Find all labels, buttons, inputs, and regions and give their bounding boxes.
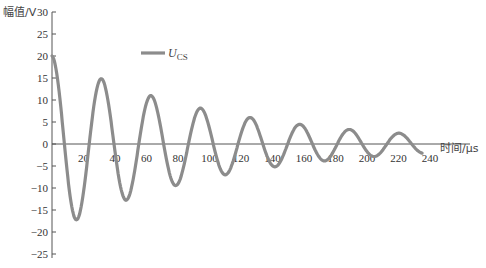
legend: UCS (141, 46, 188, 62)
y-tick-label: −5 (36, 160, 48, 172)
damped-oscillation-chart: 302520151050−5−10−15−20−25 2040608010012… (0, 0, 486, 268)
y-tick-label: 15 (37, 72, 49, 84)
series-line-ucs (52, 56, 422, 220)
y-tick-label: 20 (37, 50, 49, 62)
x-tick-label: 220 (390, 152, 407, 164)
x-axis-ticks: 20406080100120140160180200220240 (78, 152, 439, 164)
y-tick-label: −25 (31, 248, 49, 260)
y-tick-label: 10 (37, 94, 49, 106)
x-tick-label: 160 (296, 152, 313, 164)
svg-text:UCS: UCS (168, 46, 188, 62)
y-tick-label: 25 (37, 28, 49, 40)
y-tick-label: −10 (31, 182, 49, 194)
x-tick-label: 60 (141, 152, 153, 164)
legend-subscript: CS (177, 52, 188, 62)
y-tick-label: 30 (37, 6, 49, 18)
y-tick-label: 0 (43, 138, 49, 150)
x-tick-label: 240 (422, 152, 439, 164)
y-tick-label: −20 (31, 226, 49, 238)
x-axis-label: 时间/μs (440, 142, 479, 155)
y-tick-label: 5 (43, 116, 49, 128)
y-axis-label: 幅值/V (3, 6, 37, 19)
x-tick-label: 80 (173, 152, 185, 164)
y-tick-label: −15 (31, 204, 49, 216)
